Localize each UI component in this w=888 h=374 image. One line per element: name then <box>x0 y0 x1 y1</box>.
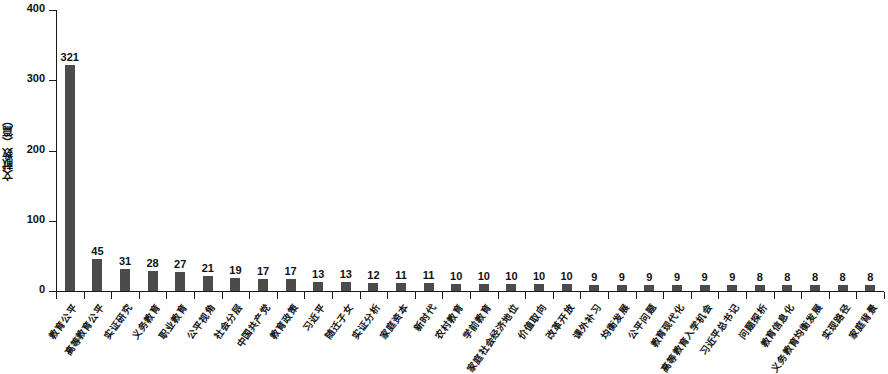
x-tick <box>332 292 333 299</box>
bar-value-label: 45 <box>91 245 103 257</box>
bar[interactable]: 10 <box>506 284 516 291</box>
x-tick <box>498 292 499 299</box>
bar-value-label: 8 <box>840 271 846 283</box>
bar-value-label: 10 <box>478 270 490 282</box>
bar-value-label: 10 <box>560 270 572 282</box>
x-tick-label: 家庭资本 <box>378 302 410 341</box>
bar[interactable]: 27 <box>175 272 185 291</box>
x-tick <box>884 292 885 299</box>
bar-value-label: 13 <box>312 268 324 280</box>
y-tick-label: 400 <box>27 2 45 14</box>
bar-value-label: 17 <box>257 265 269 277</box>
x-tick <box>525 292 526 299</box>
bar-value-label: 10 <box>450 270 462 282</box>
y-tick-label: 0 <box>39 283 45 295</box>
bar-value-label: 11 <box>395 269 407 281</box>
bar-value-label: 21 <box>202 262 214 274</box>
bar[interactable]: 9 <box>672 285 682 291</box>
x-tick <box>84 292 85 299</box>
bar[interactable]: 9 <box>644 285 654 291</box>
y-tick: 100 <box>49 221 57 222</box>
bar[interactable]: 45 <box>92 259 102 291</box>
y-tick-label: 100 <box>27 213 45 225</box>
x-tick <box>856 292 857 299</box>
bar-value-label: 11 <box>423 269 435 281</box>
bar-value-label: 9 <box>591 271 597 283</box>
x-tick <box>801 292 802 299</box>
bar[interactable]: 321 <box>65 65 75 291</box>
x-tick <box>56 292 57 299</box>
x-tick <box>222 292 223 299</box>
bar-value-label: 13 <box>340 268 352 280</box>
x-tick-label: 新时代 <box>411 302 437 333</box>
bar[interactable]: 10 <box>534 284 544 291</box>
bar[interactable]: 8 <box>782 285 792 291</box>
bar[interactable]: 9 <box>617 285 627 291</box>
x-tick <box>111 292 112 299</box>
bar[interactable]: 9 <box>727 285 737 291</box>
y-tick-label: 200 <box>27 143 45 155</box>
bar-value-label: 321 <box>61 51 79 63</box>
x-tick-label: 价值取向 <box>516 302 548 341</box>
bar-value-label: 12 <box>367 269 379 281</box>
x-tick-label: 实证研究 <box>102 302 134 341</box>
bar-value-label: 9 <box>619 271 625 283</box>
y-tick-label: 300 <box>27 72 45 84</box>
x-tick <box>194 292 195 299</box>
x-tick <box>139 292 140 299</box>
y-axis-title: 文献数（篇） <box>2 115 18 181</box>
x-tick-label: 家庭社会经济地位 <box>466 302 521 374</box>
bar[interactable]: 17 <box>258 279 268 291</box>
bar-value-label: 19 <box>229 264 241 276</box>
bar[interactable]: 21 <box>203 276 213 291</box>
x-tick <box>718 292 719 299</box>
bar-value-label: 17 <box>284 265 296 277</box>
x-tick <box>166 292 167 299</box>
plot-area: 0100200300400 32145312827211917171313121… <box>56 10 884 292</box>
bar[interactable]: 8 <box>838 285 848 291</box>
bar-value-label: 9 <box>702 271 708 283</box>
bar-value-label: 9 <box>646 271 652 283</box>
bar-value-label: 8 <box>867 271 873 283</box>
y-tick: 300 <box>49 80 57 81</box>
bar[interactable]: 13 <box>313 282 323 291</box>
bar[interactable]: 19 <box>230 278 240 291</box>
bar[interactable]: 10 <box>562 284 572 291</box>
bar[interactable]: 8 <box>810 285 820 291</box>
bar[interactable]: 13 <box>341 282 351 291</box>
x-tick-label: 习近平 <box>301 302 327 333</box>
bar[interactable]: 10 <box>479 284 489 291</box>
bar-value-label: 27 <box>174 258 186 270</box>
bar[interactable]: 11 <box>396 283 406 291</box>
x-tick <box>829 292 830 299</box>
bar[interactable]: 28 <box>148 271 158 291</box>
x-tick-label: 教育政策 <box>268 302 300 341</box>
bar-value-label: 8 <box>784 271 790 283</box>
x-tick <box>249 292 250 299</box>
bar[interactable]: 12 <box>368 283 378 291</box>
bar[interactable]: 8 <box>755 285 765 291</box>
y-tick: 200 <box>49 151 57 152</box>
x-tick <box>304 292 305 299</box>
x-tick <box>415 292 416 299</box>
bar-value-label: 9 <box>674 271 680 283</box>
bar[interactable]: 10 <box>451 284 461 291</box>
x-tick <box>442 292 443 299</box>
bar[interactable]: 11 <box>424 283 434 291</box>
x-tick <box>553 292 554 299</box>
bar-value-label: 8 <box>757 271 763 283</box>
bar[interactable]: 17 <box>286 279 296 291</box>
bar-value-label: 10 <box>505 270 517 282</box>
bar[interactable]: 8 <box>865 285 875 291</box>
bar-value-label: 8 <box>812 271 818 283</box>
x-tick <box>636 292 637 299</box>
bar[interactable]: 9 <box>589 285 599 291</box>
bar-value-label: 9 <box>729 271 735 283</box>
x-tick <box>608 292 609 299</box>
bar[interactable]: 31 <box>120 269 130 291</box>
bar[interactable]: 9 <box>700 285 710 291</box>
bar-value-label: 10 <box>533 270 545 282</box>
x-tick <box>387 292 388 299</box>
bar-value-label: 31 <box>119 255 131 267</box>
